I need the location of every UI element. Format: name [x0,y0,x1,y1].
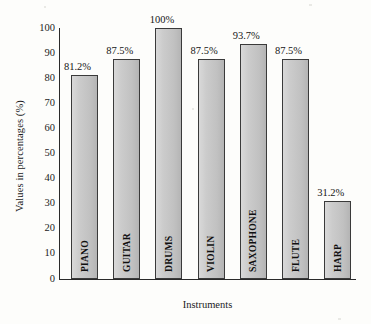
bar-value-label: 87.5% [183,45,226,56]
y-axis-tick: 70 [34,98,55,109]
bar-category-label: VIOLIN [205,236,216,272]
y-axis-tick: 10 [34,248,55,259]
bar-value-label: 31.2% [309,187,352,198]
y-axis-tick-label: 10 [34,248,55,259]
x-axis-title: Instruments [59,299,356,310]
y-axis-tick: 0 [34,274,55,285]
bar-category-label: FLUTE [289,239,300,272]
bar-value-label: 87.5% [267,45,310,56]
y-axis-tick: 100 [34,23,55,34]
y-axis-tick: 40 [34,173,55,184]
y-axis-tick: 90 [34,48,55,59]
bar-value-label: 87.5% [98,45,141,56]
y-axis-tick: 50 [34,148,55,159]
y-axis-tick: 80 [34,73,55,84]
y-axis-tick: 20 [34,223,55,234]
scan-speckle [338,318,341,320]
scan-speckle [44,6,46,8]
y-axis-tick-label: 100 [34,23,55,34]
y-axis-tick-label: 60 [34,123,55,134]
bar-value-label: 93.7% [225,30,268,41]
bar-category-label: SAXOPHONE [247,209,258,272]
bar-category-label: PIANO [78,240,89,272]
y-axis-tick-label: 0 [34,274,55,285]
bar[interactable]: GUITAR [113,59,140,279]
y-axis-tick: 60 [34,123,55,134]
bar[interactable]: DRUMS [155,28,182,279]
bar-group: DRUMS100% [148,28,190,279]
bar-group: PIANO81.2% [64,28,106,279]
bar[interactable]: PIANO [71,75,98,279]
bar-group: HARP31.2% [317,28,359,279]
scan-speckle [309,4,312,6]
bar-group: SAXOPHONE93.7% [233,28,275,279]
bar-group: FLUTE87.5% [275,28,317,279]
bar[interactable]: VIOLIN [198,59,225,279]
y-axis-tick-label: 20 [34,223,55,234]
bar-group: VIOLIN87.5% [191,28,233,279]
y-axis-tick-label: 90 [34,48,55,59]
y-axis-title: Values in percentages (%) [14,86,28,226]
plot-area: PIANO81.2%GUITAR87.5%DRUMS100%VIOLIN87.5… [59,28,356,279]
bar[interactable]: HARP [324,201,351,279]
y-axis-tick-label: 70 [34,98,55,109]
bar-chart: Values in percentages (%) 01020304050607… [0,0,371,324]
bar-category-label: DRUMS [162,236,173,272]
x-axis-line [59,279,356,280]
bar-category-label: HARP [331,244,342,272]
y-axis-tick-label: 40 [34,173,55,184]
bar-value-label: 81.2% [56,61,99,72]
y-axis-tick: 30 [34,198,55,209]
y-axis-tick-label: 50 [34,148,55,159]
y-axis-tick-label: 80 [34,73,55,84]
bar[interactable]: FLUTE [282,59,309,279]
bar-category-label: GUITAR [120,233,131,272]
bar[interactable]: SAXOPHONE [240,44,267,279]
bar-group: GUITAR87.5% [106,28,148,279]
bar-value-label: 100% [140,14,183,25]
y-axis-tick-label: 30 [34,198,55,209]
